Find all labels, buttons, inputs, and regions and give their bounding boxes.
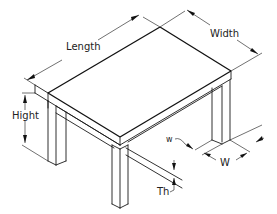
leg-width-large-label: W	[220, 157, 230, 168]
height-label: Hight	[12, 110, 39, 121]
leg-width-large-dimension: W	[202, 140, 250, 168]
table-top	[35, 27, 231, 145]
length-label: Length	[66, 41, 101, 52]
height-dimension: Hight	[12, 93, 48, 161]
front-leg	[112, 145, 128, 208]
length-dimension: Length	[24, 15, 160, 85]
width-dimension: Width	[160, 10, 262, 71]
right-edge-dimension	[230, 125, 264, 142]
table-diagram: Length Width Hight w W	[0, 0, 277, 214]
width-label: Width	[210, 28, 239, 39]
leg-width-small-dimension: w	[166, 135, 212, 150]
thickness-label: Th	[156, 186, 169, 197]
apron-front	[48, 86, 222, 188]
right-leg	[212, 80, 230, 144]
leg-width-small-label: w	[166, 135, 173, 144]
